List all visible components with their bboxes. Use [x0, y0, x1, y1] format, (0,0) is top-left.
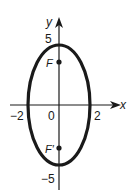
x-tick-2: 2 [94, 109, 101, 123]
focus-f-point [56, 59, 61, 64]
focus-f-prime-point [56, 145, 61, 150]
focus-f-prime-label: F′ [45, 143, 55, 155]
x-tick-0: 0 [48, 109, 55, 123]
ellipse-diagram: y 5 F −2 0 2 x F′ −5 [0, 0, 131, 192]
y-axis-label: y [45, 15, 53, 29]
x-tick-neg2: −2 [10, 109, 24, 123]
y-tick-neg5: −5 [41, 172, 55, 186]
focus-f-label: F [46, 57, 54, 69]
y-tick-5: 5 [45, 32, 52, 46]
x-axis-label: x [119, 98, 127, 112]
